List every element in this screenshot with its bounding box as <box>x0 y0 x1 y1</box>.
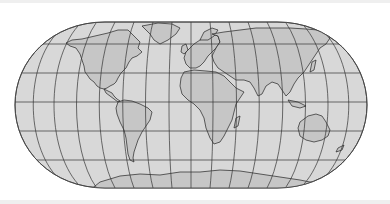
world-map <box>0 0 390 204</box>
